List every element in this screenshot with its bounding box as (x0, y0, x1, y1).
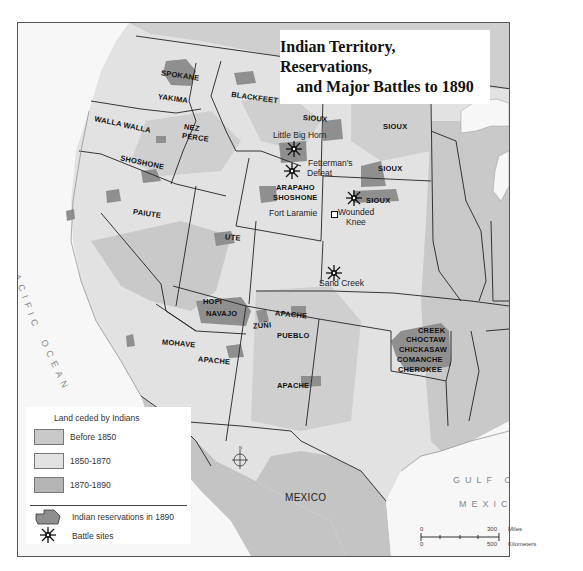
fort-icon (331, 211, 338, 218)
map-title-line-1: Indian Territory, Reservations, (280, 37, 490, 77)
legend-label-before-1850: Before 1850 (70, 432, 116, 442)
tribe-label-shoshone-wy: SHOSHONE (273, 193, 318, 202)
tribe-label-arapaho: ARAPAHO (276, 183, 315, 192)
tribe-label-chickasaw: CHICKASAW (399, 345, 447, 354)
place-label-little-big-horn: Little Big Horn (273, 130, 326, 140)
tribe-label-zuni: ZUÑI (253, 320, 272, 331)
place-label-fort-laramie: Fort Laramie (269, 208, 317, 218)
map-title-line-2: and Major Battles to 1890 (296, 77, 473, 97)
battle-icon (284, 163, 300, 179)
tribe-label-sioux-nd: SIOUX (383, 122, 407, 131)
legend-swatch-1870-1890 (34, 477, 64, 493)
reservation-icon (34, 508, 62, 526)
legend-label-1850-1870: 1850-1870 (70, 456, 111, 466)
legend: Land ceded by Indians Before 1850 1850-1… (26, 407, 191, 544)
battle-icon (346, 190, 362, 206)
place-label-fettermans-2: Defeat (307, 168, 332, 178)
tribe-label-ute: UTE (225, 232, 241, 242)
scale-ruler (420, 533, 500, 541)
country-label-mexico: MEXICO (285, 492, 326, 503)
battle-icon (40, 527, 56, 543)
place-label-wounded-knee-1: Wounded (338, 207, 374, 217)
scale-miles-unit: Miles (508, 526, 522, 532)
legend-swatch-before-1850 (34, 429, 64, 445)
tribe-label-pueblo: PUEBLO (277, 331, 309, 340)
place-label-wounded-knee-2: Knee (346, 217, 366, 227)
scale-km-unit: Kilometers (508, 541, 536, 547)
scale-km-max: 500 (487, 541, 497, 547)
tribe-label-sioux-sd-n: SIOUX (378, 164, 402, 173)
legend-heading: Land ceded by Indians (54, 413, 140, 423)
place-label-fettermans-1: Fetterman's (308, 158, 353, 168)
scale-km-zero: 0 (420, 541, 423, 547)
legend-label-1870-1890: 1870-1890 (70, 480, 111, 490)
tribe-label-choctaw: CHOCTAW (406, 335, 446, 344)
tribe-label-comanche: COMANCHE (397, 355, 443, 364)
gulf-label-1: GULF OF (453, 475, 510, 485)
tribe-label-apache-nm-s: APACHE (277, 381, 309, 390)
tribe-label-creek: CREEK (418, 326, 445, 335)
svg-text:N: N (239, 445, 242, 450)
legend-divider (30, 505, 187, 506)
legend-swatch-1850-1870 (34, 453, 64, 469)
scale-miles-max: 300 (487, 526, 497, 532)
battle-icon (286, 141, 302, 157)
legend-label-battle-sites: Battle sites (72, 531, 114, 541)
battle-icon (326, 265, 342, 281)
gulf-label-2: MEXICO (459, 499, 510, 509)
map-title-box: Indian Territory, Reservations, and Majo… (280, 30, 490, 104)
compass-icon: N (231, 445, 251, 471)
tribe-label-hopi: HOPI (203, 297, 222, 306)
scale-miles-zero: 0 (420, 526, 423, 532)
tribe-label-cherokee: CHEROKEE (398, 365, 442, 374)
legend-label-reservations: Indian reservations in 1890 (72, 512, 174, 522)
tribe-label-navajo: NAVAJO (206, 309, 237, 318)
tribe-label-sioux-sd-s: SIOUX (366, 196, 390, 205)
